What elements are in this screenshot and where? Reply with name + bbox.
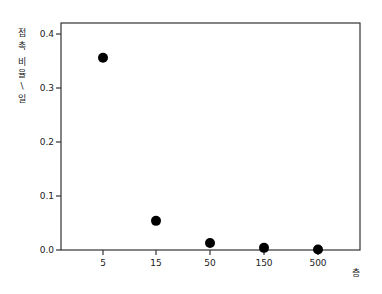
y-tick-label: 0.2: [40, 137, 54, 147]
y-axis-title-char: 일: [18, 94, 26, 104]
x-tick-label: 15: [150, 258, 161, 268]
scatter-chart: 0.00.10.20.30.4 51550150500 접촉비율\일 층: [0, 0, 382, 294]
x-tick-label: 50: [204, 258, 216, 268]
x-axis-title: 층: [352, 268, 360, 278]
y-tick-label: 0.0: [40, 245, 55, 255]
data-point: [151, 216, 161, 226]
x-tick-label: 150: [255, 258, 272, 268]
y-tick-label: 0.4: [40, 29, 55, 39]
data-point: [259, 243, 269, 253]
y-axis-title-char: \: [20, 81, 24, 91]
y-axis-title-char: 접: [18, 27, 26, 38]
data-points: [98, 53, 323, 255]
y-tick-label: 0.1: [40, 191, 54, 201]
y-axis-title-char: 비: [18, 57, 26, 67]
x-tick-label: 5: [100, 258, 106, 268]
data-point: [313, 244, 323, 254]
data-point: [98, 53, 108, 63]
x-axis-ticks: 51550150500: [100, 250, 327, 268]
x-tick-label: 500: [309, 258, 326, 268]
y-axis-title: 접촉비율\일: [18, 27, 26, 104]
y-tick-label: 0.3: [40, 83, 54, 93]
y-axis-title-char: 율: [18, 69, 26, 79]
data-point: [205, 238, 215, 248]
y-axis-ticks: 0.00.10.20.30.4: [40, 29, 61, 255]
y-axis-title-char: 촉: [18, 41, 26, 51]
